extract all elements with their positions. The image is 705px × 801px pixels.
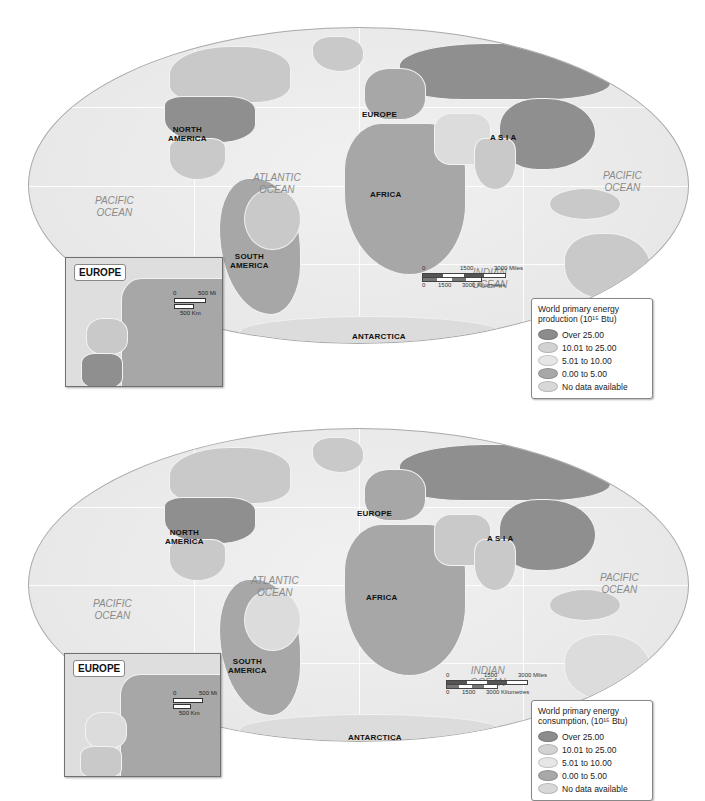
legend-item: 10.01 to 25.00 [538,743,646,756]
label-asia: A S I A [487,534,514,543]
label-pacific-ocean-west: PACIFIC OCEAN [95,195,134,219]
russia [399,43,611,100]
label-asia: A S I A [490,133,517,142]
label-atlantic-ocean: ATLANTIC OCEAN [253,172,301,196]
legend-item: Over 25.00 [538,730,646,743]
production-map-panel: NORTH AMERICA SOUTH AMERICA EUROPE AFRIC… [0,0,705,400]
legend-item: 10.01 to 25.00 [538,341,646,354]
legend-item: No data available [538,380,646,393]
label-africa: AFRICA [366,593,397,602]
mexico-central-america [169,138,226,180]
europe-inset-map: EUROPE 0 500 Mi 500 Km [65,257,223,387]
inset-scale-zero: 0 [173,290,176,296]
label-north-america: NORTH AMERICA [168,125,207,143]
label-south-america: SOUTH AMERICA [228,657,267,675]
inset-title: EUROPE [74,264,126,281]
legend-item: No data available [538,782,646,795]
legend-item: 5.01 to 10.00 [538,756,646,769]
scale-bar: 0 1500 3000 Miles 0 1500 3000 Kilometres [422,265,532,289]
legend-title: World primary energy production (10¹⁵ Bt… [538,304,646,324]
inset-title: EUROPE [73,660,125,677]
india [474,138,516,190]
label-pacific-ocean-east: PACIFIC OCEAN [603,170,642,194]
consumption-map-panel: NORTH AMERICA SOUTH AMERICA EUROPE AFRIC… [0,400,705,797]
label-atlantic-ocean: ATLANTIC OCEAN [251,575,299,599]
australia-land [564,233,651,300]
brazil [244,188,301,250]
label-antarctica: ANTARCTICA [348,733,402,742]
scale-bar: 0 1500 3000 Miles 0 1500 3000 Kilometres [446,672,556,696]
label-europe: EUROPE [362,110,397,119]
inset-scale-miles: 500 Mi [198,290,216,296]
legend-item: 0.00 to 5.00 [538,367,646,380]
label-north-america: NORTH AMERICA [165,528,204,546]
label-pacific-ocean-east: PACIFIC OCEAN [600,572,639,596]
label-antarctica: ANTARCTICA [352,332,406,341]
greenland [312,36,364,72]
canada [169,46,291,103]
label-europe: EUROPE [357,509,392,518]
label-africa: AFRICA [370,190,401,199]
legend-item: 0.00 to 5.00 [538,769,646,782]
legend-item: 5.01 to 10.00 [538,354,646,367]
inset-scale-km: 500 Km [180,310,201,316]
europe-inset-map: EUROPE 0 500 Mi 500 Km [64,653,221,777]
legend-consumption: World primary energy consumption, (10¹⁵ … [531,700,653,801]
legend-title: World primary energy consumption, (10¹⁵ … [538,706,646,726]
label-south-america: SOUTH AMERICA [230,252,269,270]
legend-production: World primary energy production (10¹⁵ Bt… [531,298,653,399]
legend-item: Over 25.00 [538,328,646,341]
label-pacific-ocean-west: PACIFIC OCEAN [93,598,132,622]
